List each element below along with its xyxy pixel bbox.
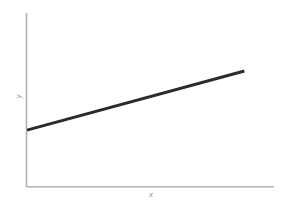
y-axis-label: y (14, 91, 23, 103)
x-axis-label: x (144, 190, 158, 199)
figure-canvas: y x (0, 0, 286, 211)
data-line-linear-trend (27, 71, 244, 130)
plot-area (0, 0, 286, 211)
